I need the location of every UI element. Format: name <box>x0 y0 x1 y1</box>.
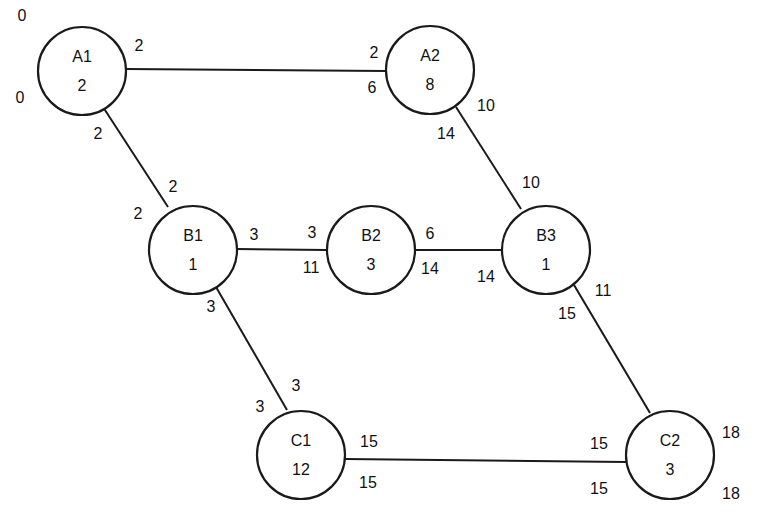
node-duration: 2 <box>78 77 87 94</box>
node-circle <box>327 206 415 294</box>
node-b3: B31 <box>502 206 590 294</box>
edge-a1-a2 <box>126 69 386 71</box>
edge-label: 14 <box>477 268 495 285</box>
node-a1: A12 <box>38 27 126 115</box>
node-circle <box>149 206 237 294</box>
edge-label: 6 <box>426 225 435 242</box>
edge-label: 15 <box>558 305 576 322</box>
edge-label: 11 <box>303 259 320 276</box>
edge-a1-b1 <box>103 107 168 207</box>
node-a2: A28 <box>386 26 474 114</box>
edge-label: 10 <box>477 97 495 114</box>
edge-label: 3 <box>292 377 301 394</box>
edge-label: 3 <box>256 398 265 415</box>
edge-label: 6 <box>368 79 377 96</box>
edge-b1-b2 <box>237 249 327 250</box>
node-side-label: 0 <box>16 89 25 106</box>
node-name: A1 <box>72 48 92 65</box>
node-name: C2 <box>660 432 681 449</box>
edge-label: 15 <box>590 435 608 452</box>
node-name: B2 <box>361 227 381 244</box>
node-c1: C112 <box>257 411 345 499</box>
node-circle <box>38 27 126 115</box>
edge-label: 3 <box>308 224 317 241</box>
edge-a2-b3 <box>456 107 521 209</box>
node-c2: C23 <box>626 411 714 499</box>
node-name: B3 <box>536 227 556 244</box>
edge-label: 2 <box>370 44 379 61</box>
edge-label: 2 <box>135 37 144 54</box>
edge-c1-c2 <box>345 459 626 462</box>
edge-label: 10 <box>522 174 540 191</box>
node-side-label: 18 <box>722 424 740 441</box>
node-circle <box>386 26 474 114</box>
edge-label: 2 <box>94 125 103 142</box>
network-diagram: A12A28B11B23B31C112C23 22622233116141410… <box>0 0 759 519</box>
node-b2: B23 <box>327 206 415 294</box>
node-duration: 1 <box>542 256 551 273</box>
node-duration: 1 <box>189 256 198 273</box>
edge-label: 2 <box>134 205 143 222</box>
node-b1: B11 <box>149 206 237 294</box>
edge-label: 15 <box>359 474 377 491</box>
node-duration: 3 <box>666 461 675 478</box>
edge-b1-c1 <box>216 287 287 410</box>
node-name: C1 <box>291 432 312 449</box>
edge-label: 3 <box>250 226 259 243</box>
edge-label: 2 <box>169 178 178 195</box>
edge-label: 15 <box>360 433 378 450</box>
node-side-label: 0 <box>18 7 27 24</box>
node-duration: 8 <box>426 76 435 93</box>
node-name: A2 <box>420 47 440 64</box>
nodes-layer: A12A28B11B23B31C112C23 <box>38 26 714 499</box>
edge-label: 3 <box>207 298 216 315</box>
node-circle <box>502 206 590 294</box>
node-name: B1 <box>183 227 203 244</box>
edge-b3-c2 <box>574 285 650 413</box>
node-circle <box>257 411 345 499</box>
node-side-label: 18 <box>722 485 740 502</box>
node-duration: 3 <box>367 256 376 273</box>
edge-label: 14 <box>421 260 439 277</box>
edge-label: 15 <box>590 480 608 497</box>
edge-label: 11 <box>595 282 612 299</box>
node-circle <box>626 411 714 499</box>
node-duration: 12 <box>292 461 310 478</box>
edge-label: 14 <box>437 125 455 142</box>
